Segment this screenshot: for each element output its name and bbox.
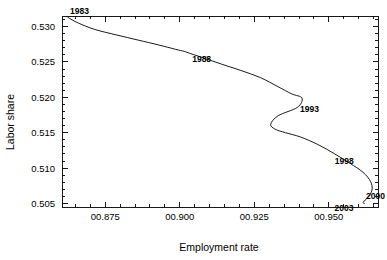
year-label: 2000: [366, 191, 385, 201]
year-annotations: 198319881993199820002003: [70, 6, 385, 213]
x-axis-tick-labels: 00.87500.90000.92500.950: [91, 211, 344, 222]
y-tick-label: 0.520: [31, 92, 55, 103]
series-path: [68, 17, 372, 203]
chart-figure: 00.87500.90000.92500.950 0.5050.5100.515…: [0, 0, 387, 260]
y-axis-title: Labor share: [4, 94, 16, 150]
y-tick-label: 0.505: [31, 198, 55, 209]
year-label: 2003: [335, 203, 354, 213]
y-tick-label: 0.530: [31, 21, 55, 32]
x-tick-label: 00.875: [91, 211, 120, 222]
year-label: 1988: [192, 54, 211, 64]
y-axis-tick-labels: 0.5050.5100.5150.5200.5250.530: [31, 21, 55, 209]
x-tick-label: 00.900: [165, 211, 194, 222]
plot-frame: [62, 16, 378, 207]
year-label: 1993: [300, 104, 319, 114]
y-tick-label: 0.525: [31, 56, 55, 67]
year-label: 1983: [70, 6, 89, 16]
scatter-line-plot: 00.87500.90000.92500.950 0.5050.5100.515…: [0, 0, 387, 260]
year-label: 1998: [335, 156, 354, 166]
axis-ticks: [62, 16, 378, 207]
y-tick-label: 0.515: [31, 127, 55, 138]
data-series-line: [68, 17, 372, 203]
x-tick-label: 00.925: [240, 211, 269, 222]
y-tick-label: 0.510: [31, 163, 55, 174]
x-axis-title: Employment rate: [179, 241, 259, 253]
